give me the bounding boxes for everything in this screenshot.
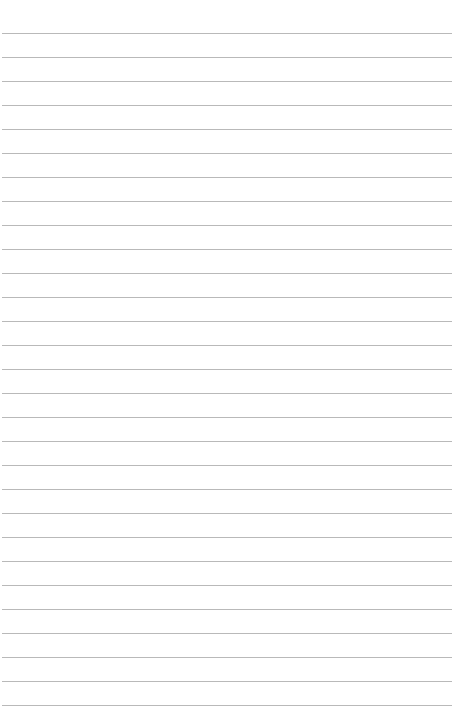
ruled-line [2,537,452,538]
ruled-line [2,57,452,58]
ruled-line [2,393,452,394]
ruled-line [2,105,452,106]
ruled-line [2,657,452,658]
ruled-line [2,705,452,706]
ruled-line [2,609,452,610]
ruled-line [2,129,452,130]
lined-paper-page [0,0,462,726]
ruled-line [2,585,452,586]
ruled-line [2,33,452,34]
ruled-line [2,489,452,490]
ruled-line [2,513,452,514]
ruled-line [2,681,452,682]
ruled-line [2,153,452,154]
ruled-line [2,297,452,298]
ruled-line [2,273,452,274]
ruled-line [2,345,452,346]
ruled-line [2,321,452,322]
ruled-line [2,225,452,226]
ruled-line [2,81,452,82]
ruled-line [2,177,452,178]
ruled-line [2,249,452,250]
ruled-line [2,561,452,562]
ruled-line [2,465,452,466]
ruled-line [2,633,452,634]
ruled-line [2,369,452,370]
ruled-line [2,441,452,442]
ruled-line [2,417,452,418]
ruled-line [2,201,452,202]
